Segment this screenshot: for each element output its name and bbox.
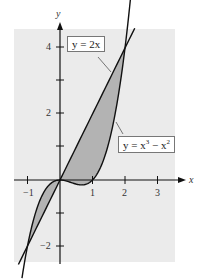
x-axis-label: x — [188, 174, 194, 185]
y-axis-arrow-icon — [57, 22, 63, 30]
cubic-label-mid: − x — [149, 139, 166, 151]
x-tick-label: −1 — [23, 187, 34, 198]
cubic-label-base: y = x — [123, 139, 146, 151]
label-box-cubic: y = x3 − x2 — [118, 136, 175, 153]
line-label-text: y = 2x — [72, 38, 100, 50]
x-tick-label: 2 — [122, 187, 127, 198]
label-box-line: y = 2x — [67, 36, 105, 52]
y-tick-label: 4 — [46, 41, 51, 52]
cubic-label-exp2: 2 — [166, 138, 170, 146]
y-tick-label: −2 — [40, 240, 51, 251]
x-tick-label: 3 — [155, 187, 160, 198]
y-axis-label: y — [55, 8, 61, 19]
x-axis-arrow-icon — [178, 177, 186, 183]
x-tick-label: 1 — [90, 187, 95, 198]
y-tick-label: 2 — [46, 107, 51, 118]
